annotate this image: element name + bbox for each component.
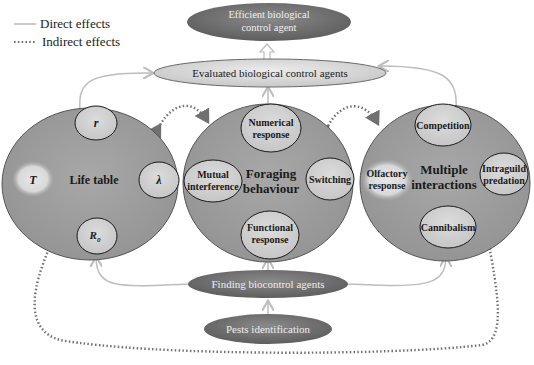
legend: Direct effects Indirect effects <box>14 16 120 49</box>
node-pests-identification: Pests identification <box>204 314 332 344</box>
functional-label-2: response <box>251 234 289 245</box>
life-table-title: Life table <box>70 173 120 187</box>
node-evaluated-agents: Evaluated biological control agents <box>154 59 386 87</box>
circle-multiple-interactions: Olfactory response Competition Intraguil… <box>360 104 530 261</box>
node-efficient-agent: Efficient biological control agent <box>187 3 351 41</box>
hollow-arrow-evaluated-efficient <box>260 44 274 61</box>
direct-arrow-finding-lifetable <box>96 258 190 286</box>
finding-label: Finding biocontrol agents <box>211 278 324 290</box>
foraging-title-2: behaviour <box>243 181 300 196</box>
olfactory-label-1: Olfactory <box>366 168 407 179</box>
evaluated-label: Evaluated biological control agents <box>192 67 347 79</box>
foraging-title-1: Foraging <box>246 166 297 181</box>
direct-arrow-multiple-evaluated <box>380 66 456 110</box>
competition-label: Competition <box>416 120 470 131</box>
direct-arrow-finding-multiple <box>345 258 446 285</box>
direct-arrow-lifetable-evaluated <box>80 73 152 110</box>
diagram-canvas: Direct effects Indirect effects Efficien… <box>0 0 534 365</box>
efficient-label-line2: control agent <box>241 22 296 33</box>
r-label: r <box>94 116 99 130</box>
indirect-arrow-lifetable-foraging <box>160 106 208 125</box>
multiple-title-1: Multiple <box>420 162 468 177</box>
switching-label: Switching <box>309 174 351 185</box>
T-label: T <box>29 173 37 187</box>
legend-indirect-label: Indirect effects <box>42 34 120 49</box>
mutual-label-1: Mutual <box>197 169 229 180</box>
intraguild-label-2: predation <box>483 175 525 186</box>
lambda-label: λ <box>155 173 162 187</box>
efficient-label-line1: Efficient biological <box>228 9 309 20</box>
olfactory-label-2: response <box>368 180 406 191</box>
multiple-title-2: interactions <box>411 177 477 192</box>
numerical-label-2: response <box>252 129 290 140</box>
legend-direct-label: Direct effects <box>40 16 110 31</box>
functional-label-1: Functional <box>247 222 293 233</box>
circle-life-table: T r λ R0 Life table <box>2 106 179 260</box>
mutual-label-2: interference <box>187 181 239 192</box>
node-finding-agents: Finding biocontrol agents <box>188 270 348 298</box>
cannibalism-label: Cannibalism <box>421 222 476 233</box>
indirect-arrow-foraging-multiple <box>328 106 378 126</box>
pests-label: Pests identification <box>226 323 311 335</box>
numerical-label-1: Numerical <box>249 117 294 128</box>
intraguild-label-1: Intraguild <box>482 163 526 174</box>
circle-foraging-behaviour: Numerical response Mutual interference S… <box>183 104 354 262</box>
